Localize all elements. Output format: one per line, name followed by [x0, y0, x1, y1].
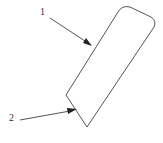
- reference-label-2: 2: [9, 113, 14, 123]
- leader-line-2: [20, 111, 70, 120]
- leader-line-1: [50, 18, 88, 43]
- plate-outline: [66, 7, 155, 127]
- arrowhead-2-icon: [67, 108, 77, 114]
- diagram-figure: [0, 0, 163, 143]
- reference-label-1: 1: [40, 7, 45, 17]
- arrowhead-1-icon: [83, 38, 92, 46]
